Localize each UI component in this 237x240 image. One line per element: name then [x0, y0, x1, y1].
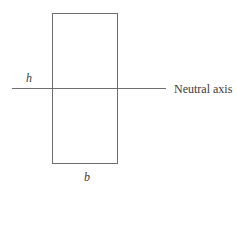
width-label: b: [84, 171, 90, 183]
height-label: h: [26, 72, 32, 84]
neutral-axis-label: Neutral axis: [174, 83, 232, 95]
